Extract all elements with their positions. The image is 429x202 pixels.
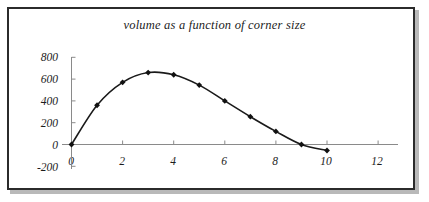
x-axis-ticks — [123, 141, 379, 145]
plot-area — [0, 0, 429, 202]
data-point-marker — [196, 82, 202, 88]
data-point-marker — [324, 148, 330, 154]
data-point-markers — [69, 70, 330, 154]
axes — [62, 57, 398, 169]
data-point-marker — [145, 70, 151, 76]
chart-figure: volume as a function of corner size 800 … — [0, 0, 429, 202]
data-point-marker — [171, 72, 177, 78]
data-point-marker — [299, 142, 305, 148]
y-axis-ticks — [72, 57, 76, 166]
